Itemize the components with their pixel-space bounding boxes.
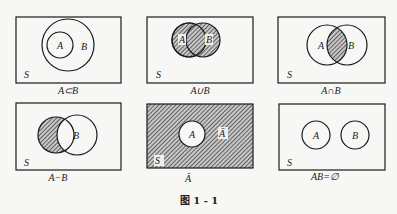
label-b: B: [73, 130, 79, 141]
label-b: B: [348, 40, 354, 51]
label-s: S: [156, 69, 161, 80]
label-a: A: [317, 40, 325, 51]
caption-complement: Ā: [184, 173, 192, 184]
caption-difference: A−B: [48, 172, 68, 183]
label-s: S: [24, 69, 29, 80]
label-b: B: [206, 34, 212, 45]
caption-disjoint: AB=∅: [310, 171, 340, 182]
label-s: S: [287, 157, 292, 168]
label-b: B: [81, 41, 87, 52]
label-a-complement: Ā: [218, 128, 226, 139]
venn-diagram-figure: A B S A⊂B A B S A∪B A B S A∩B B S A−B: [0, 0, 397, 214]
label-s: S: [287, 69, 292, 80]
caption-subset: A⊂B: [57, 85, 78, 96]
panel-intersection: A B S A∩B: [278, 17, 385, 96]
panel-difference: B S A−B: [16, 103, 121, 183]
panel-complement: A Ā S Ā: [147, 104, 253, 184]
label-a: A: [312, 130, 320, 141]
panel-disjoint: A B S AB=∅: [279, 104, 385, 182]
label-b: B: [352, 130, 358, 141]
caption-intersection: A∩B: [320, 85, 340, 96]
label-s: S: [155, 155, 160, 166]
label-a: A: [56, 40, 64, 51]
panel-subset: A B S A⊂B: [16, 17, 121, 96]
panel-union: A B S A∪B: [147, 17, 253, 96]
figure-caption: 图 1 - 1: [180, 195, 219, 206]
label-a: A: [178, 34, 186, 45]
caption-union: A∪B: [189, 85, 209, 96]
label-a: A: [188, 129, 196, 140]
label-s: S: [24, 157, 29, 168]
